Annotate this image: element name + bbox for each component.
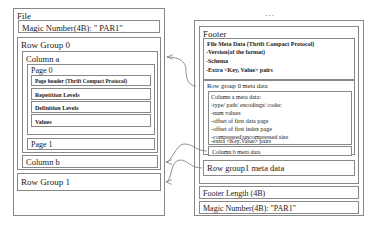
file-meta-schema-label: -Schema — [206, 58, 228, 64]
column-a-label: Column a — [26, 55, 59, 64]
page-1-label: Page 1 — [31, 141, 53, 149]
arrow-rowgroup0-meta-to-column-a — [167, 57, 196, 86]
file-meta-extra-kv-row: -Extra <Key, Value> pairs — [205, 66, 353, 75]
definition-levels-box: Definition Levels — [31, 101, 151, 113]
diagram-canvas: File Magic Number(4B): " PAR1" Row Group… — [0, 0, 372, 225]
column-b-label: Column b — [26, 158, 60, 167]
column-a-meta-num-values: -num values — [211, 110, 241, 116]
page-0-label: Page 0 — [31, 67, 53, 75]
column-a-meta-title: Column a meta data: — [211, 94, 261, 100]
file-meta-schema-row: -Schema — [205, 57, 353, 66]
footer-length-label: Footer Length (4B) — [203, 190, 265, 198]
values-box: Values — [31, 114, 151, 127]
values-label: Values — [35, 119, 52, 125]
column-a-meta-first-data-page-offset: -offset of first data page — [211, 118, 269, 124]
row-group-1-meta-label: Row group1 meta data — [207, 164, 284, 173]
footer-length-box: Footer Length (4B) — [199, 186, 359, 199]
page-header-box: Page header (Thrift Compact Protocol) — [31, 75, 151, 86]
column-a-meta-box: Column a meta data: -type/ path/ encodin… — [208, 91, 352, 145]
magic-number-top-label: Magic Number(4B): " PAR1" — [22, 24, 123, 33]
row-group-1-label: Row Group 1 — [21, 178, 70, 187]
page-1-box: Page 1 — [27, 138, 155, 150]
magic-number-bottom-box: Magic Number(4B): "PAR1" — [199, 201, 359, 214]
page-header-label: Page header (Thrift Compact Protocol) — [35, 79, 127, 85]
row-group-0-meta-label: Row group 0 meta data — [207, 83, 268, 90]
file-meta-version-label: -Version(of the format) — [206, 49, 265, 55]
row-group-0-label: Row Group 0 — [21, 41, 70, 50]
row-group-1-meta-box: Row group1 meta data — [203, 160, 355, 176]
column-a-meta-extra-kv: -extra <Key,Value> pairs — [211, 138, 271, 144]
magic-number-top-box: Magic Number(4B): " PAR1" — [18, 20, 160, 33]
file-meta-data-label: File Meta Data (Thrift Compact Protocol) — [207, 41, 314, 47]
magic-number-bottom-label: Magic Number(4B): "PAR1" — [203, 205, 296, 213]
repetition-levels-label: Repetition Levels — [35, 92, 80, 98]
column-b-meta-box: Column b meta data — [208, 146, 352, 156]
file-meta-version-row: -Version(of the format) — [205, 48, 353, 57]
column-a-meta-first-index-page-offset: -offset of first index page — [211, 126, 272, 132]
column-b-box: Column b — [22, 155, 158, 168]
column-b-meta-label: Column b meta data — [212, 149, 261, 155]
column-a-meta-type-path: -type/ path/ encodings/ codec — [211, 102, 281, 108]
file-meta-extra-kv-label: -Extra <Key, Value> pairs — [206, 67, 273, 73]
ellipsis-separator: ... — [256, 8, 284, 18]
definition-levels-label: Definition Levels — [35, 105, 79, 111]
row-group-1-box: Row Group 1 — [17, 173, 161, 191]
repetition-levels-box: Repetition Levels — [31, 88, 151, 100]
